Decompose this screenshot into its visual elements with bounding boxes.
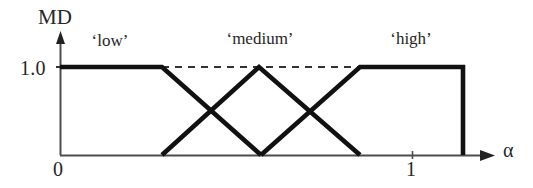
x-axis-title: α bbox=[503, 139, 514, 162]
fuzzy-set-label-medium: ‘medium’ bbox=[226, 29, 293, 49]
y-axis-title: MD bbox=[38, 5, 72, 30]
x-axis-tick-label-0: 0 bbox=[53, 158, 63, 181]
fuzzy-set-label-high: ‘high’ bbox=[390, 29, 432, 49]
y-axis-tick-label-1.0: 1.0 bbox=[20, 57, 46, 80]
x-axis-tick-label-1: 1 bbox=[406, 158, 416, 181]
fuzzy-set-label-low: ‘low’ bbox=[92, 31, 129, 51]
